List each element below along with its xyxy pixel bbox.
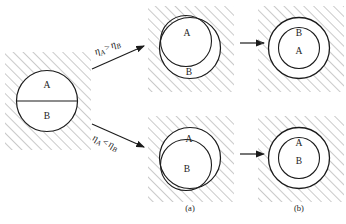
intermediate-bottom-label-inner: B: [184, 164, 190, 174]
diagram-svg: A B ηA>ηB ηA<ηB A B: [0, 0, 346, 224]
final-bottom-label-annulus: A: [296, 138, 303, 148]
final-top-label-annulus: B: [296, 28, 302, 38]
intermediate-bottom-group: A B: [148, 116, 234, 202]
final-bottom-group: A B: [258, 116, 344, 202]
intermediate-bottom-label-outer: A: [186, 134, 193, 144]
svg-text:ηA>ηB: ηA>ηB: [93, 36, 123, 59]
initial-region-label-a: A: [44, 80, 51, 90]
final-top-label-core: A: [296, 46, 303, 56]
eta-subscript-top-right: B: [115, 42, 123, 51]
intermediate-top-label-outer: B: [186, 67, 192, 77]
caption-b: (b): [294, 203, 304, 213]
final-bottom-label-core: B: [296, 156, 302, 166]
intermediate-top-group: A B: [148, 6, 234, 92]
initial-region-label-b: B: [44, 111, 50, 121]
final-top-group: B A: [258, 6, 344, 92]
caption-a: (a): [185, 203, 195, 213]
figure-canvas: A B ηA>ηB ηA<ηB A B: [0, 0, 346, 224]
branch-arrow-bottom-group: ηA<ηB: [90, 124, 144, 154]
eta-condition-top: ηA>ηB: [93, 36, 123, 59]
initial-state-group: A B: [5, 52, 91, 150]
branch-arrow-top-group: ηA>ηB: [92, 36, 144, 69]
intermediate-top-label-inner: A: [184, 28, 191, 38]
